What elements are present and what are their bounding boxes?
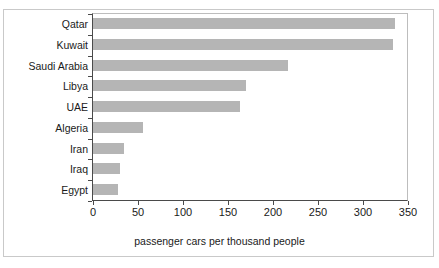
chart-title — [0, 0, 439, 2]
category-tick — [88, 14, 92, 15]
value-tick — [138, 201, 139, 205]
category-tick — [88, 159, 92, 160]
category-label: Algeria — [0, 118, 88, 139]
bar-row — [93, 159, 408, 180]
category-label: Saudi Arabia — [0, 56, 88, 77]
category-label: Iran — [0, 139, 88, 160]
category-label: Kuwait — [0, 35, 88, 56]
value-tick — [318, 201, 319, 205]
category-label: Iraq — [0, 159, 88, 180]
bar-saudi-arabia — [93, 60, 288, 71]
category-tick — [88, 35, 92, 36]
category-tick — [88, 56, 92, 57]
bar-series — [93, 14, 408, 201]
value-tick — [228, 201, 229, 205]
bar-egypt — [93, 184, 118, 195]
bar-iraq — [93, 163, 120, 174]
value-tick — [93, 201, 94, 205]
category-tick — [88, 76, 92, 77]
bar-row — [93, 97, 408, 118]
category-tick — [88, 180, 92, 181]
value-tick-label: 0 — [73, 206, 113, 218]
category-label: UAE — [0, 97, 88, 118]
bar-algeria — [93, 122, 143, 133]
value-tick-label: 150 — [208, 206, 248, 218]
bar-row — [93, 14, 408, 35]
value-tick-label: 250 — [298, 206, 338, 218]
value-tick — [273, 201, 274, 205]
bar-iran — [93, 143, 124, 154]
category-label: Libya — [0, 76, 88, 97]
value-tick-label: 100 — [163, 206, 203, 218]
bar-qatar — [93, 18, 395, 29]
bar-row — [93, 56, 408, 77]
bar-uae — [93, 101, 240, 112]
category-label: Qatar — [0, 14, 88, 35]
category-label: Egypt — [0, 180, 88, 201]
chart-figure: Qatar Kuwait Saudi Arabia Libya UAE Alge… — [0, 0, 439, 268]
bar-libya — [93, 80, 246, 91]
bar-row — [93, 139, 408, 160]
category-axis-labels: Qatar Kuwait Saudi Arabia Libya UAE Alge… — [0, 14, 88, 201]
bar-row — [93, 76, 408, 97]
category-tick — [88, 201, 92, 202]
category-tick — [88, 97, 92, 98]
value-tick — [363, 201, 364, 205]
value-tick-label: 300 — [343, 206, 383, 218]
x-axis-title: passenger cars per thousand people — [0, 235, 439, 247]
bar-row — [93, 118, 408, 139]
value-tick-label: 50 — [118, 206, 158, 218]
value-tick-label: 350 — [388, 206, 428, 218]
value-tick — [408, 201, 409, 205]
category-tick — [88, 139, 92, 140]
value-tick-label: 200 — [253, 206, 293, 218]
bar-kuwait — [93, 39, 393, 50]
bar-row — [93, 180, 408, 201]
bar-row — [93, 35, 408, 56]
category-tick — [88, 118, 92, 119]
value-tick — [183, 201, 184, 205]
